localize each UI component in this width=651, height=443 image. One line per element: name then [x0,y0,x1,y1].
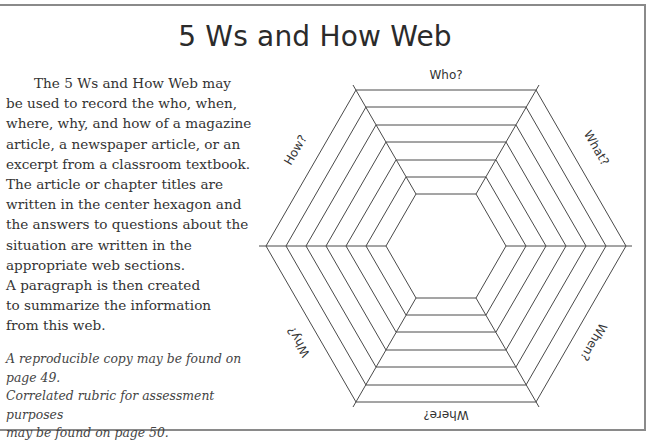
ring-2 [366,177,526,315]
spoke-lower-left [353,298,416,407]
label-how: How? [281,132,309,167]
spoke-upper-right [476,85,539,194]
spoke-lower-right [476,298,539,407]
ring-1-center[interactable] [386,194,506,298]
spoke-upper-left [353,85,416,194]
label-what: What? [581,128,612,168]
spoke-lines [259,85,632,407]
label-when: When? [577,321,610,363]
label-who: Who? [429,68,462,82]
label-why: Why? [284,324,313,360]
label-where: Where? [423,408,468,422]
